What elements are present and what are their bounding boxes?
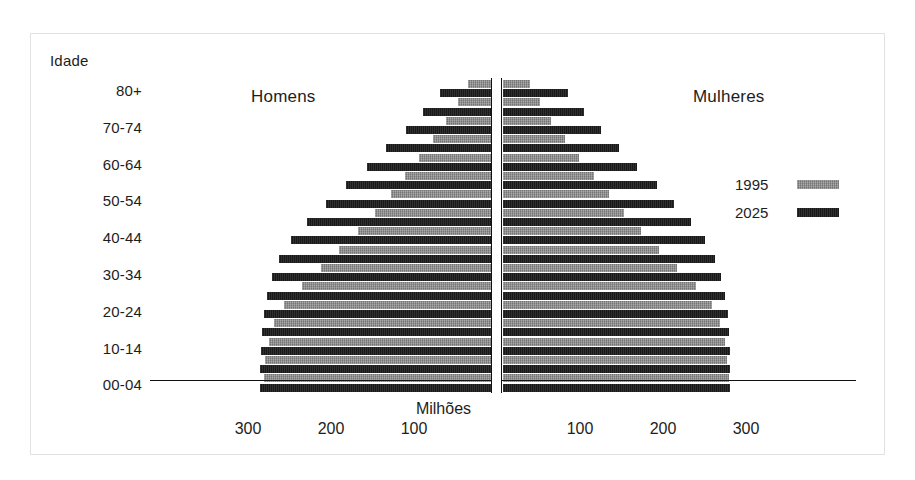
- heading-men: Homens: [251, 87, 316, 107]
- legend-item-2025: 2025: [735, 198, 839, 226]
- legend-label-2025: 2025: [735, 204, 779, 221]
- x-tick-right-300: 300: [716, 420, 776, 438]
- age-axis-title: Idade: [50, 52, 89, 69]
- age-tick-70-74: 70-74: [40, 119, 150, 136]
- baseline-axis: [150, 380, 856, 381]
- age-tick-80+: 80+: [40, 82, 150, 99]
- age-tick-40-44: 40-44: [40, 229, 150, 246]
- x-tick-right-200: 200: [633, 420, 693, 438]
- legend-swatch-1995: [797, 180, 839, 189]
- age-tick-30-34: 30-34: [40, 266, 150, 283]
- x-axis-tick-labels: 300200100100200300: [0, 420, 915, 444]
- x-tick-right-100: 100: [550, 420, 610, 438]
- x-axis-title: Milhões: [0, 400, 915, 418]
- chart-legend: 19952025: [735, 170, 839, 226]
- heading-women: Mulheres: [693, 87, 765, 107]
- legend-item-1995: 1995: [735, 170, 839, 198]
- legend-label-1995: 1995: [735, 176, 779, 193]
- x-tick-left-200: 200: [301, 420, 361, 438]
- age-tick-00-04: 00-04: [40, 376, 150, 393]
- x-axis-title-text: Milhões: [416, 400, 471, 417]
- age-tick-20-24: 20-24: [40, 303, 150, 320]
- age-tick-60-64: 60-64: [40, 156, 150, 173]
- age-tick-10-14: 10-14: [40, 340, 150, 357]
- center-axis-spine: [491, 78, 502, 393]
- x-tick-left-300: 300: [218, 420, 278, 438]
- x-tick-left-100: 100: [384, 420, 444, 438]
- age-tick-50-54: 50-54: [40, 192, 150, 209]
- legend-swatch-2025: [797, 208, 839, 217]
